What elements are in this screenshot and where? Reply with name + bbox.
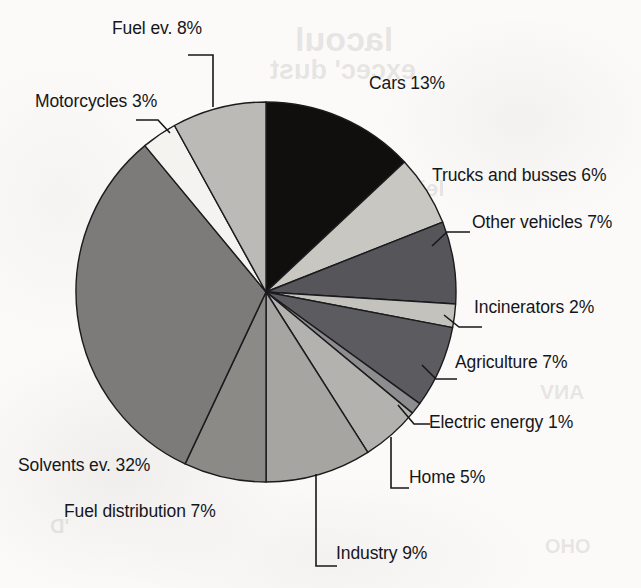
pie-label-other-vehicles: Other vehicles 7% [472,212,612,233]
pie-chart-graphic [0,0,641,588]
pie-label-electric-energy: Electric energy 1% [429,412,573,433]
leader-line-home [391,437,409,488]
pie-label-fuel-ev: Fuel ev. 8% [112,18,202,39]
pie-label-agriculture: Agriculture 7% [455,352,567,373]
pie-label-trucks-and-busses: Trucks and busses 6% [432,165,606,186]
pie-label-home: Home 5% [409,467,485,488]
pie-label-solvents-ev: Solvents ev. 32% [18,455,150,476]
leader-line-fuel-ev [188,55,213,107]
pie-label-cars: Cars 13% [369,73,445,94]
pie-label-incinerators: Incinerators 2% [474,297,594,318]
pie-label-fuel-distribution: Fuel distribution 7% [64,501,216,522]
pie-chart: Fuel ev. 8% Motorcycles 3% Cars 13% Truc… [0,0,641,588]
pie-label-industry: Industry 9% [336,543,427,564]
leader-line-industry [316,474,337,566]
pie-slice-group [76,102,456,482]
pie-label-motorcycles: Motorcycles 3% [35,91,157,112]
